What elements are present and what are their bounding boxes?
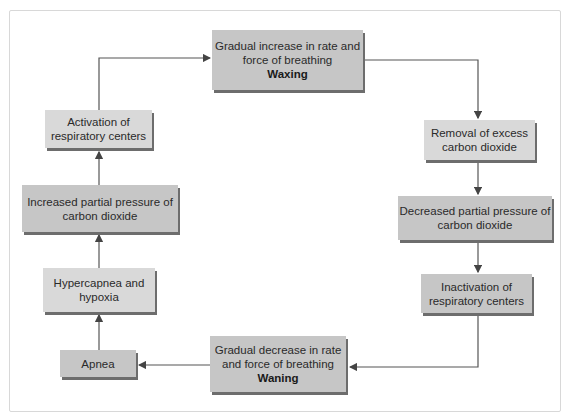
node-text: carbon dioxide bbox=[442, 140, 517, 154]
node-inactivation: Inactivation of respiratory centers bbox=[421, 274, 532, 313]
node-text: Activation of bbox=[67, 115, 130, 129]
node-text: carbon dioxide bbox=[63, 209, 138, 223]
node-increased-pco2: Increased partial pressure of carbon dio… bbox=[22, 185, 178, 232]
node-text: Apnea bbox=[81, 357, 114, 371]
node-text: Increased partial pressure of bbox=[27, 195, 173, 209]
node-text: force of breathing bbox=[243, 53, 333, 67]
node-text: Gradual decrease in rate bbox=[215, 343, 342, 357]
node-text: Gradual increase in rate and bbox=[215, 39, 360, 53]
node-waning: Gradual decrease in rate and force of br… bbox=[210, 336, 346, 392]
node-text: Decreased partial pressure of bbox=[400, 204, 551, 218]
node-text: Hypercapnea and bbox=[54, 276, 145, 290]
node-bold-label: Waning bbox=[257, 371, 298, 385]
node-bold-label: Waxing bbox=[267, 67, 307, 81]
node-hypercapnea: Hypercapnea and hypoxia bbox=[43, 268, 155, 312]
node-text: hypoxia bbox=[79, 290, 119, 304]
node-activation: Activation of respiratory centers bbox=[45, 110, 152, 148]
node-removal: Removal of excess carbon dioxide bbox=[424, 120, 535, 160]
node-apnea: Apnea bbox=[60, 350, 136, 377]
node-text: Removal of excess bbox=[431, 126, 528, 140]
node-text: respiratory centers bbox=[51, 129, 146, 143]
node-text: Inactivation of bbox=[441, 280, 512, 294]
node-text: and force of breathing bbox=[222, 357, 334, 371]
node-waxing: Gradual increase in rate and force of br… bbox=[212, 30, 363, 90]
node-text: respiratory centers bbox=[429, 294, 524, 308]
node-text: carbon dioxide bbox=[438, 218, 513, 232]
node-decreased-pco2: Decreased partial pressure of carbon dio… bbox=[398, 196, 552, 240]
